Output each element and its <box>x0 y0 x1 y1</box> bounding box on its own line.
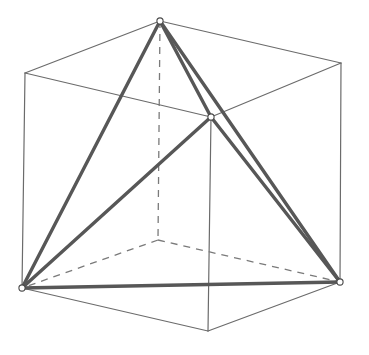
vertex-marker-top-front <box>208 114 214 120</box>
cube-edge-top-left-to-bottom-left <box>22 73 25 288</box>
figure-canvas <box>0 0 369 355</box>
tetrahedron-in-cube-diagram <box>0 0 369 355</box>
tetrahedron-edge-bottom-left-to-bottom-right <box>22 282 340 288</box>
tetrahedron-edge-top-back-to-bottom-left <box>22 21 160 288</box>
tetrahedron-edge-top-back-to-bottom-right <box>160 21 340 282</box>
tetrahedron-edge-top-back-to-top-front <box>160 21 211 117</box>
cube-edge-top-back-to-top-left <box>25 21 160 73</box>
cube-edge-top-front-to-bottom-front <box>208 117 211 331</box>
vertex-marker-bottom-right <box>337 279 343 285</box>
cube-edge-bottom-left-to-bottom-front <box>22 288 208 331</box>
cube-edge-top-right-to-bottom-right <box>340 63 341 282</box>
cube-hidden-edge-top-back-to-bottom-back <box>158 21 160 240</box>
cube-edge-top-right-to-top-back <box>160 21 341 63</box>
vertex-marker-top-back <box>157 18 163 24</box>
tetrahedron-edge-top-front-to-bottom-left <box>22 117 211 288</box>
tetrahedron-edges-group <box>22 21 340 288</box>
cube-edge-top-front-to-top-right <box>211 63 341 117</box>
tetrahedron-edge-top-front-to-bottom-right <box>211 117 340 282</box>
vertex-marker-bottom-left <box>19 285 25 291</box>
cube-edge-top-left-to-top-front <box>25 73 211 117</box>
cube-edge-bottom-front-to-bottom-right <box>208 282 340 331</box>
